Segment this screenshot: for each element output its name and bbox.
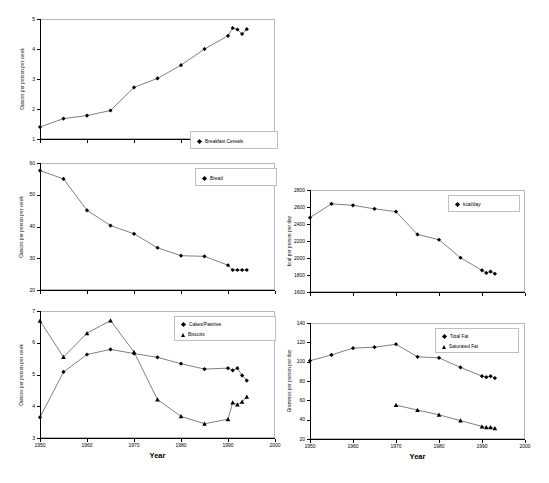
data-point-cakes-biscuits-1-3	[108, 318, 113, 322]
data-point-cakes-biscuits-1-9	[230, 400, 235, 404]
legend-entry-energy-intake-0: kcal/day	[455, 202, 481, 207]
y-tick-label-cakes-biscuits-3: 6	[14, 340, 35, 345]
legend-label-cakes-biscuits-0: Cakes/Pastries	[189, 322, 221, 327]
data-point-breakfast-cereals-0-9	[231, 26, 235, 30]
x-tick-energy-intake-0	[310, 293, 311, 296]
data-point-bread-0-11	[240, 268, 244, 272]
data-point-bread-0-10	[235, 268, 239, 272]
x-tick-label-cakes-biscuits-5: 2000	[261, 443, 289, 448]
data-point-cakes-biscuits-0-6	[179, 362, 183, 366]
y-tick-label-energy-intake-5: 2600	[284, 205, 305, 210]
legend-marker-triangle-icon	[442, 345, 446, 349]
data-point-fat-intake-0-5	[415, 355, 419, 359]
x-tick-label-fat-intake-4: 1990	[468, 444, 496, 449]
y-axis-title-energy-intake: kcal per person per day	[287, 216, 292, 266]
y-tick-label-cakes-biscuits-2: 5	[14, 372, 35, 377]
data-point-energy-intake-0-3	[372, 207, 376, 211]
data-point-bread-0-12	[245, 268, 249, 272]
y-tick-label-fat-intake-1: 40	[284, 417, 305, 422]
data-point-cakes-biscuits-1-6	[179, 414, 184, 418]
x-tick-energy-intake-4	[482, 293, 483, 296]
series-line-energy-intake-0	[310, 204, 495, 274]
x-tick-energy-intake-3	[439, 293, 440, 296]
data-point-energy-intake-0-11	[493, 272, 497, 276]
data-point-cakes-biscuits-0-5	[155, 355, 159, 359]
y-tick-label-energy-intake-0: 1600	[284, 290, 305, 295]
data-point-bread-0-4	[132, 232, 136, 236]
data-point-cakes-biscuits-0-3	[108, 347, 112, 351]
data-point-bread-0-5	[155, 246, 159, 250]
chart-panel-cakes-biscuits: 34567195019601970198019902000Ounces per …	[40, 311, 275, 438]
series-line-breakfast-cereals-0	[40, 28, 247, 127]
y-axis-title-breakfast-cereals: Ounces per person per week	[20, 48, 25, 110]
data-point-breakfast-cereals-0-0	[38, 125, 42, 129]
x-tick-breakfast-cereals-2	[134, 140, 135, 143]
data-point-fat-intake-0-2	[351, 346, 355, 350]
data-point-cakes-biscuits-0-9	[231, 368, 235, 372]
data-point-bread-0-3	[108, 223, 112, 227]
data-point-fat-intake-0-9	[484, 375, 488, 379]
data-point-cakes-biscuits-1-2	[85, 331, 90, 335]
x-tick-label-fat-intake-1: 1960	[339, 444, 367, 449]
data-point-breakfast-cereals-0-7	[202, 47, 206, 51]
y-tick-label-bread-3: 50	[14, 192, 35, 197]
chart-panel-breakfast-cereals: 12345Ounces per person per weekBreakfast…	[40, 19, 275, 139]
data-point-cakes-biscuits-1-4	[132, 350, 137, 354]
legend-marker-diamond-icon	[197, 138, 202, 143]
legend-cakes-biscuits: Cakes/PastriesBiscuits	[174, 316, 276, 341]
y-tick-label-breakfast-cereals-4: 5	[14, 17, 35, 22]
y-tick-label-fat-intake-6: 140	[284, 321, 305, 326]
x-tick-label-cakes-biscuits-3: 1980	[167, 443, 195, 448]
data-point-breakfast-cereals-0-6	[179, 63, 183, 67]
data-point-breakfast-cereals-0-5	[155, 76, 159, 80]
data-point-breakfast-cereals-0-2	[85, 114, 89, 118]
data-point-fat-intake-0-1	[329, 353, 333, 357]
x-tick-energy-intake-5	[525, 293, 526, 296]
data-point-cakes-biscuits-0-8	[226, 366, 230, 370]
legend-energy-intake: kcal/day	[448, 195, 520, 212]
data-point-cakes-biscuits-0-0	[38, 415, 42, 419]
legend-breakfast-cereals: Breakfast Cereals	[190, 131, 278, 149]
x-tick-breakfast-cereals-3	[181, 140, 182, 143]
x-tick-energy-intake-2	[396, 293, 397, 296]
x-axis-line-energy-intake	[310, 292, 525, 293]
legend-label-fat-intake-1: Saturated Fat	[449, 344, 478, 349]
chart-panel-bread: 2030405060Ounces per person per weekBrea…	[40, 163, 275, 290]
y-tick-label-cakes-biscuits-4: 7	[14, 309, 35, 314]
y-tick-label-cakes-biscuits-1: 4	[14, 404, 35, 409]
x-axis-line-cakes-biscuits	[40, 438, 275, 439]
series-layer-breakfast-cereals	[40, 19, 275, 139]
x-tick-bread-2	[134, 291, 135, 294]
x-axis-title-fat-intake: Year	[310, 453, 525, 461]
data-point-fat-intake-0-8	[480, 374, 484, 378]
legend-marker-diamond-icon	[455, 202, 460, 207]
data-point-energy-intake-0-9	[484, 271, 488, 275]
data-point-breakfast-cereals-0-8	[226, 34, 230, 38]
x-tick-label-cakes-biscuits-1: 1960	[73, 443, 101, 448]
data-point-bread-0-1	[61, 177, 65, 181]
x-tick-breakfast-cereals-1	[87, 140, 88, 143]
data-point-energy-intake-0-8	[480, 268, 484, 272]
series-line-cakes-biscuits-0	[40, 349, 247, 417]
x-tick-bread-1	[87, 291, 88, 294]
data-point-cakes-biscuits-1-5	[155, 397, 160, 401]
data-point-cakes-biscuits-0-2	[85, 352, 89, 356]
x-tick-bread-3	[181, 291, 182, 294]
chart-panel-energy-intake: 1600180020002200240026002800kcal per per…	[310, 190, 525, 292]
data-point-fat-intake-0-6	[437, 356, 441, 360]
legend-bread: Bread	[195, 168, 277, 186]
legend-marker-triangle-icon	[181, 333, 185, 337]
legend-marker-diamond-icon	[202, 175, 207, 180]
legend-entry-breakfast-cereals-0: Breakfast Cereals	[197, 139, 243, 144]
y-axis-title-cakes-biscuits: Ounces per person per week	[19, 344, 24, 406]
data-point-fat-intake-0-11	[493, 376, 497, 380]
data-point-cakes-biscuits-1-10	[235, 402, 240, 406]
x-tick-label-cakes-biscuits-0: 1950	[26, 443, 54, 448]
legend-label-breakfast-cereals-0: Breakfast Cereals	[205, 139, 243, 144]
data-point-cakes-biscuits-0-7	[202, 367, 206, 371]
x-axis-line-fat-intake	[310, 439, 525, 440]
x-tick-label-cakes-biscuits-2: 1970	[120, 443, 148, 448]
data-point-bread-0-0	[38, 169, 42, 173]
y-tick-label-breakfast-cereals-0: 1	[14, 137, 35, 142]
x-tick-label-cakes-biscuits-4: 1990	[214, 443, 242, 448]
